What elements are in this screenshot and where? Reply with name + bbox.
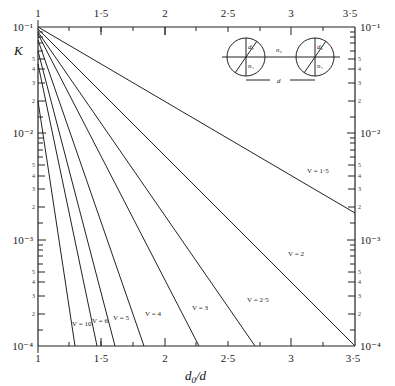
curve-v4	[38, 40, 144, 346]
x-tick-bottom-2: 2	[162, 352, 168, 364]
inset-d0-label: d₀	[248, 43, 255, 51]
x-tick-top-2.5: 2·5	[221, 7, 236, 19]
minor-2: 2	[358, 98, 361, 104]
curve-v10	[38, 101, 75, 346]
minor-3: 3	[358, 186, 361, 192]
minor-3: 3	[32, 80, 35, 86]
y-tick-left-1e-2: 10⁻²	[13, 127, 34, 139]
minor-5: 5	[358, 162, 361, 168]
minor-4: 4	[358, 66, 361, 72]
minor-5: 5	[358, 269, 361, 275]
inset-n1-label: n₁	[248, 62, 254, 70]
x-tick-top-1.5: 1·5	[94, 7, 109, 19]
x-tick-top-1: 1	[35, 7, 41, 19]
minor-3: 3	[358, 293, 361, 299]
y-tick-right-1e-3: 10⁻³	[360, 234, 381, 246]
minor-5: 5	[32, 56, 35, 62]
minor-2: 2	[358, 204, 361, 210]
label-v1.5: V = 1·5	[307, 167, 329, 175]
minor-3: 3	[32, 186, 35, 192]
inset-n1-label-2: n₁	[317, 62, 323, 70]
minor-4: 4	[32, 173, 35, 179]
minor-5: 5	[32, 162, 35, 168]
minor-4: 4	[358, 173, 361, 179]
x-tick-bottom-1: 1	[35, 352, 41, 364]
y-tick-right-1e-2: 10⁻²	[360, 127, 381, 139]
curve-v5	[38, 51, 115, 346]
x-tick-bottom-3: 3	[288, 352, 294, 364]
x-tick-top-3.5: 3·5	[343, 7, 358, 19]
curve-v6	[38, 64, 97, 346]
y-tick-left-1e-1: 10⁻¹	[13, 21, 33, 33]
minor-2: 2	[32, 311, 35, 317]
label-v2.5: V = 2·5	[247, 296, 269, 304]
minor-4: 4	[32, 66, 35, 72]
curve-v2	[38, 29, 355, 346]
label-v2: V = 2	[288, 250, 304, 258]
curve-v3	[38, 34, 199, 346]
curve-v1.5	[38, 27, 355, 213]
inset-n2-label: n₂	[276, 46, 283, 54]
minor-4: 4	[358, 279, 361, 285]
minor-5: 5	[358, 56, 361, 62]
minor-2: 2	[358, 311, 361, 317]
minor-2: 2	[32, 98, 35, 104]
minor-4: 4	[32, 279, 35, 285]
x-tick-bottom-1.5: 1·5	[94, 352, 109, 364]
minor-5: 5	[32, 269, 35, 275]
minor-3: 3	[358, 80, 361, 86]
x-tick-top-2: 2	[162, 7, 168, 19]
y-tick-labels: 10⁻¹ 10⁻² 10⁻³ 10⁻⁴ 10⁻¹ 10⁻² 10⁻³ 10⁻⁴	[12, 21, 381, 352]
inset-d-label: d	[277, 77, 281, 85]
y-tick-right-1e-4: 10⁻⁴	[360, 340, 381, 352]
y-tick-left-1e-4: 10⁻⁴	[12, 340, 33, 352]
y-tick-left-1e-3: 10⁻³	[13, 234, 34, 246]
minor-3: 3	[32, 293, 35, 299]
label-v4: V = 4	[145, 310, 161, 318]
inset-d0-label-2: d₀	[317, 43, 324, 51]
label-v3: V = 3	[192, 304, 208, 312]
chart-svg: 1 1·5 2 2·5 3 3·5 1 1·5 2 2·5 3 3·5 10⁻¹…	[0, 0, 395, 386]
x-tick-top-3: 3	[288, 7, 294, 19]
x-tick-bottom-2.5: 2·5	[221, 352, 236, 364]
x-axis-title: d0/d	[185, 368, 207, 385]
x-tick-bottom-3.5: 3·5	[346, 352, 361, 364]
curve-v2.5	[38, 32, 255, 346]
minor-2: 2	[32, 204, 35, 210]
x-ticks	[38, 20, 323, 353]
y-tick-right-1e-1: 10⁻¹	[360, 21, 380, 33]
label-v10: V = 10	[72, 320, 92, 328]
label-v5: V = 5	[113, 314, 129, 322]
label-v6: V = 6	[92, 317, 108, 325]
y-axis-title: K	[13, 43, 24, 58]
